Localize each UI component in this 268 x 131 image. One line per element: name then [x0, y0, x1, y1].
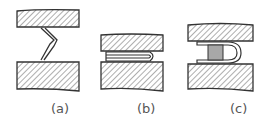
panel-label-c: (c) — [230, 101, 247, 116]
panel-label-a: (a) — [51, 101, 69, 116]
panel-c — [188, 24, 253, 92]
panel-a — [17, 10, 79, 91]
top-plate-c — [188, 24, 253, 42]
top-plate-b — [101, 34, 163, 51]
folded-clip-b — [106, 52, 153, 61]
shaded-insert-c — [208, 45, 223, 60]
diagram-canvas — [0, 0, 268, 131]
panel-label-b: (b) — [137, 101, 155, 116]
bottom-plate-c — [188, 64, 253, 91]
bottom-plate-a — [17, 62, 79, 91]
bent-spring-a — [41, 28, 57, 60]
top-plate-a — [17, 10, 79, 27]
bottom-plate-b — [101, 62, 163, 91]
panel-b — [101, 34, 163, 91]
